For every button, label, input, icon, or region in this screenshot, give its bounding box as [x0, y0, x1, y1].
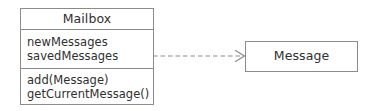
- class-name-compartment-message: Message: [246, 42, 357, 71]
- method-add: add(Message): [21, 73, 153, 87]
- uml-class-diagram-canvas: Mailbox newMessages savedMessages add(Me…: [0, 0, 376, 111]
- class-name-mailbox: Mailbox: [21, 13, 153, 26]
- uml-class-mailbox[interactable]: Mailbox newMessages savedMessages add(Me…: [20, 8, 154, 105]
- attribute-new-messages: newMessages: [21, 35, 153, 49]
- attributes-compartment-mailbox: newMessages savedMessages: [21, 29, 153, 68]
- uml-class-message[interactable]: Message: [245, 41, 358, 72]
- methods-compartment-mailbox: add(Message) getCurrentMessage(): [21, 68, 153, 104]
- class-name-compartment-mailbox: Mailbox: [21, 9, 153, 29]
- method-get-current-message: getCurrentMessage(): [21, 87, 153, 101]
- dependency-arrow-mailbox-to-message[interactable]: [150, 44, 250, 68]
- class-name-message: Message: [246, 50, 357, 63]
- attribute-saved-messages: savedMessages: [21, 49, 153, 63]
